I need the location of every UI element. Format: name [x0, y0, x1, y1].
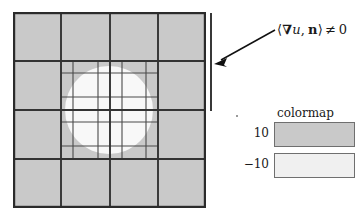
- boundary-condition-formula: ⟨∇u, n⟩ ≠ 0: [277, 22, 347, 37]
- colormap-entry-low: −10: [232, 153, 363, 179]
- colormap-swatch-high: [274, 122, 355, 147]
- formula-comma: ,: [301, 22, 305, 37]
- colormap-legend: colormap 10 −10: [232, 106, 363, 186]
- formula-field-symbol: u: [292, 22, 301, 37]
- colormap-title: colormap: [277, 106, 334, 120]
- colormap-label-high: 10: [254, 126, 269, 140]
- nabla-operator-icon: ∇: [282, 22, 292, 37]
- formula-normal-vector: n: [308, 22, 318, 37]
- colormap-entry-high: 10: [232, 122, 363, 148]
- mesh-panel: [13, 12, 206, 208]
- annotation-arrow: [214, 30, 275, 67]
- mesh-diagram: [13, 12, 206, 208]
- formula-value: 0: [339, 22, 347, 37]
- formula-relation: ≠: [325, 22, 336, 37]
- boundary-annotation-group: ⟨∇u, n⟩ ≠ 0: [205, 8, 363, 120]
- stray-mark-icon: [236, 115, 238, 117]
- formula-close-bracket: ⟩: [318, 22, 323, 37]
- figure-root: ⟨∇u, n⟩ ≠ 0 colormap 10 −10: [0, 0, 363, 218]
- colormap-label-low: −10: [244, 157, 269, 171]
- colormap-swatch-low: [274, 153, 355, 178]
